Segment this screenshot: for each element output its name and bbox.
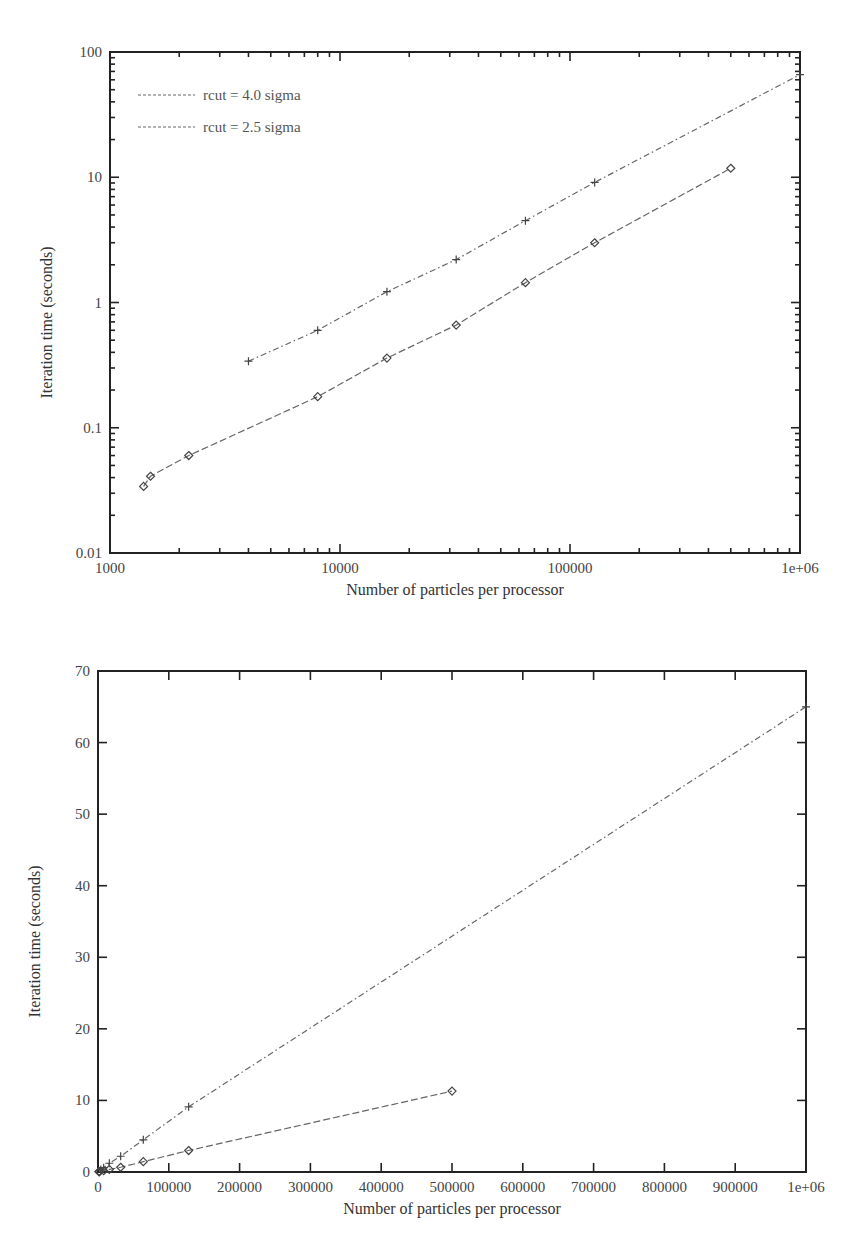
- plus-marker-icon: [244, 357, 252, 365]
- x-tick-label: 0: [94, 1179, 102, 1195]
- x-axis: 0100000200000300000400000500000600000700…: [94, 671, 825, 1195]
- plus-marker-icon: [521, 217, 529, 225]
- series-rcut-4-0: [97, 703, 810, 1174]
- y-tick-label: 0.1: [83, 420, 102, 436]
- series-line: [144, 168, 731, 486]
- y-tick-label: 30: [75, 949, 90, 965]
- linear-plot-area: 0100000200000300000400000500000600000700…: [0, 620, 853, 1243]
- x-tick-label: 10000: [321, 560, 359, 576]
- y-axis-label: Iteration time (seconds): [26, 866, 44, 1018]
- y-tick-label: 10: [87, 169, 102, 185]
- plus-marker-icon: [185, 1103, 193, 1111]
- diamond-marker-icon: [727, 164, 735, 172]
- legend-entry-label: rcut = 2.5 sigma: [203, 119, 301, 135]
- y-tick-label: 100: [80, 44, 103, 60]
- x-tick-label: 800000: [642, 1179, 687, 1195]
- y-tick-label: 0: [83, 1164, 91, 1180]
- x-tick-label: 100000: [146, 1179, 191, 1195]
- log-log-chart: 1000100001000001e+060.010.1110100Number …: [0, 0, 853, 620]
- y-tick-label: 10: [75, 1092, 90, 1108]
- y-axis: 010203040506070: [75, 663, 806, 1180]
- plus-marker-icon: [802, 703, 810, 711]
- x-axis-label: Number of particles per processor: [346, 581, 564, 599]
- plus-marker-icon: [591, 178, 599, 186]
- series-line: [101, 707, 806, 1170]
- diamond-marker-icon: [314, 393, 322, 401]
- x-tick-label: 1e+06: [781, 560, 819, 576]
- legend: rcut = 4.0 sigmarcut = 2.5 sigma: [138, 87, 301, 135]
- x-tick-label: 100000: [548, 560, 593, 576]
- legend-entry-label: rcut = 4.0 sigma: [203, 87, 301, 103]
- series-line: [248, 75, 800, 362]
- series-rcut-2-5: [95, 1087, 456, 1176]
- diamond-marker-icon: [448, 1087, 456, 1095]
- x-tick-label: 200000: [217, 1179, 262, 1195]
- plus-marker-icon: [383, 288, 391, 296]
- x-tick-label: 700000: [571, 1179, 616, 1195]
- y-tick-label: 60: [75, 735, 90, 751]
- x-tick-label: 600000: [500, 1179, 545, 1195]
- plus-marker-icon: [139, 1136, 147, 1144]
- y-tick-label: 50: [75, 806, 90, 822]
- series-rcut-2-5: [140, 164, 735, 490]
- x-axis-label: Number of particles per processor: [343, 1200, 561, 1218]
- x-tick-label: 400000: [359, 1179, 404, 1195]
- y-tick-label: 20: [75, 1021, 90, 1037]
- plus-marker-icon: [452, 256, 460, 264]
- x-tick-label: 900000: [713, 1179, 758, 1195]
- plus-marker-icon: [117, 1152, 125, 1160]
- y-tick-label: 40: [75, 878, 90, 894]
- x-tick-label: 1000: [95, 560, 125, 576]
- y-tick-label: 0.01: [76, 545, 102, 561]
- y-axis-label: Iteration time (seconds): [38, 247, 56, 399]
- series-rcut-4-0: [244, 71, 804, 366]
- y-tick-label: 70: [75, 663, 90, 679]
- series-line: [99, 1091, 452, 1172]
- x-tick-label: 1e+06: [787, 1179, 825, 1195]
- x-tick-label: 500000: [430, 1179, 475, 1195]
- plus-marker-icon: [314, 326, 322, 334]
- x-tick-label: 300000: [288, 1179, 333, 1195]
- linear-chart: 0100000200000300000400000500000600000700…: [0, 620, 853, 1243]
- y-tick-label: 1: [95, 295, 103, 311]
- y-axis: 0.010.1110100: [76, 44, 800, 561]
- log-log-plot-area: 1000100001000001e+060.010.1110100Number …: [0, 0, 853, 620]
